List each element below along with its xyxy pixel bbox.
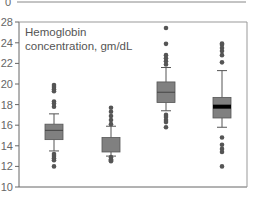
y-tick-label: 12 <box>1 160 13 172</box>
box <box>45 124 63 139</box>
y-axis-ticks: 101214161820222428 <box>1 16 19 193</box>
outlier-point <box>52 89 57 94</box>
top-panel-fragment: 0 <box>5 0 246 8</box>
outlier-point <box>164 62 169 67</box>
box <box>102 138 120 152</box>
outlier-point <box>109 105 114 110</box>
outlier-point <box>164 125 169 130</box>
outlier-point <box>52 164 57 169</box>
outlier-point <box>109 159 114 164</box>
box-group-4 <box>213 41 231 169</box>
outlier-point <box>220 164 225 169</box>
outlier-point <box>220 150 225 155</box>
y-tick-label: 10 <box>1 181 13 193</box>
outlier-point <box>109 122 114 127</box>
top-tick-label: 0 <box>5 0 11 8</box>
outlier-point <box>52 158 57 163</box>
box-group-1 <box>45 83 63 169</box>
boxplot-chart: 0 101214161820222428 Hemoglobin concentr… <box>0 0 254 197</box>
outlier-point <box>109 118 114 123</box>
chart-title-line1: Hemoglobin <box>25 26 86 38</box>
outlier-point <box>164 26 169 31</box>
outlier-point <box>164 120 169 125</box>
outlier-point <box>220 135 225 140</box>
outlier-point <box>220 49 225 54</box>
outlier-point <box>220 142 225 147</box>
y-tick-label: 18 <box>1 99 13 111</box>
y-tick-label: 24 <box>1 37 13 49</box>
y-tick-label: 16 <box>1 119 13 131</box>
outlier-point <box>109 110 114 115</box>
outlier-point <box>109 114 114 119</box>
outlier-point <box>220 53 225 58</box>
y-tick-label: 28 <box>1 16 13 28</box>
outlier-point <box>220 60 225 65</box>
outlier-point <box>52 104 57 109</box>
y-tick-label: 14 <box>1 140 13 152</box>
box-group-2 <box>102 105 120 163</box>
outlier-point <box>164 42 169 47</box>
box-group-3 <box>157 26 175 130</box>
y-tick-label: 20 <box>1 78 13 90</box>
y-tick-label: 22 <box>1 57 13 69</box>
chart-title-line2: concentration, gm/dL <box>25 40 133 52</box>
